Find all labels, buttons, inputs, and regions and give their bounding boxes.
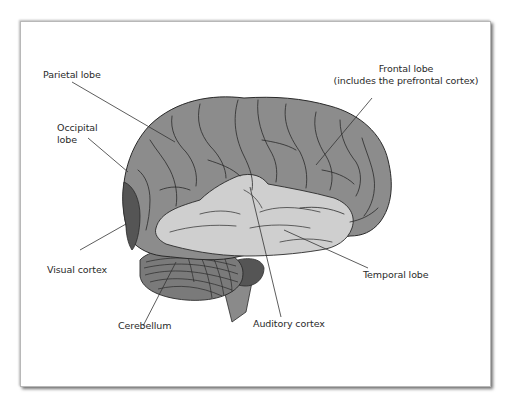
label-parietal-lobe: Parietal lobe	[43, 69, 101, 81]
label-visual-cortex: Visual cortex	[47, 264, 107, 276]
brain-diagram	[0, 0, 509, 404]
label-occipital-line1: Occipital	[57, 122, 98, 134]
label-frontal-lobe-title: Frontal lobe	[326, 63, 486, 75]
label-cerebellum: Cerebellum	[118, 320, 171, 332]
label-occipital-lobe: Occipital lobe	[57, 122, 98, 146]
label-frontal-lobe: Frontal lobe (includes the prefrontal co…	[326, 63, 486, 87]
label-occipital-line2: lobe	[57, 134, 98, 146]
visual-cortex-leader	[80, 224, 126, 250]
label-temporal-lobe: Temporal lobe	[363, 269, 429, 281]
label-auditory-cortex: Auditory cortex	[253, 318, 325, 330]
label-frontal-lobe-note: (includes the prefrontal cortex)	[326, 75, 486, 87]
